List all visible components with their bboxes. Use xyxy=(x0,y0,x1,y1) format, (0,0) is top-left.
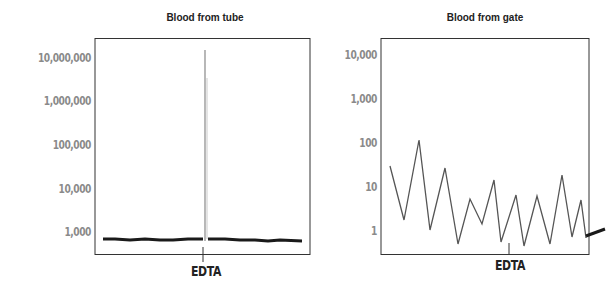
left-series-baseline-left xyxy=(103,239,203,240)
left-series-baseline-right xyxy=(208,239,302,241)
right-series-zigzag xyxy=(390,140,586,246)
charts-canvas xyxy=(0,0,615,292)
right-plot-frame xyxy=(381,39,589,255)
left-plot-frame xyxy=(95,39,310,255)
